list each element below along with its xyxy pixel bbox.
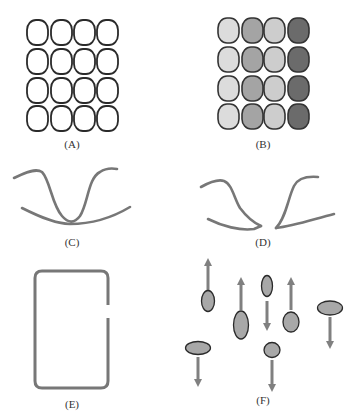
particle-5 xyxy=(318,301,343,345)
particle-1 xyxy=(202,262,215,312)
panel-c-curves xyxy=(14,168,130,224)
particle-6 xyxy=(186,342,211,384)
panel-a-label: (A) xyxy=(64,138,80,151)
particle-7 xyxy=(264,343,280,389)
panel-f-label: (F) xyxy=(256,394,270,407)
panel-c-label: (C) xyxy=(65,236,80,249)
particle-3 xyxy=(262,276,273,328)
column-light xyxy=(218,18,239,129)
panel-d-label: (D) xyxy=(255,236,271,249)
panel-f-particles xyxy=(186,262,343,388)
panel-e-label: (E) xyxy=(65,398,79,411)
particle-4 xyxy=(283,281,299,332)
column-light-medium xyxy=(264,18,285,129)
figure-canvas: (A) (B) (C) xyxy=(0,0,355,418)
panel-a-grid xyxy=(27,20,118,131)
particle-2 xyxy=(234,281,249,339)
panel-d-curves xyxy=(201,177,334,230)
column-dark xyxy=(288,18,309,129)
panel-b-grid xyxy=(218,18,309,129)
panel-b-label: (B) xyxy=(256,138,271,151)
panel-e-open-rectangle xyxy=(35,271,108,388)
column-medium xyxy=(242,18,263,129)
